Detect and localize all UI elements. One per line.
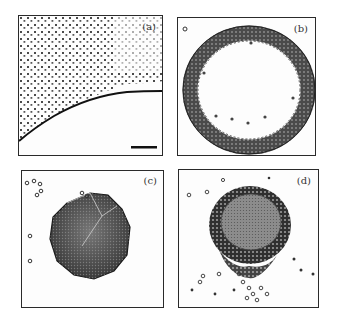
scale-bar [131, 146, 157, 149]
panel-label-c: (c) [144, 175, 157, 186]
panel-d: (d) [178, 169, 319, 308]
ring-aggregate-image [178, 18, 316, 156]
shelled-cluster-image [179, 170, 319, 308]
polygonal-cluster-image [22, 171, 164, 308]
panel-label-d: (d) [297, 175, 311, 186]
particle-field-image [19, 16, 163, 156]
panel-label-a: (a) [142, 21, 156, 32]
panel-c: (c) [21, 170, 164, 308]
panel-label-b: (b) [294, 23, 308, 34]
panel-b: (b) [177, 17, 316, 156]
panel-a: (a) [18, 15, 163, 156]
